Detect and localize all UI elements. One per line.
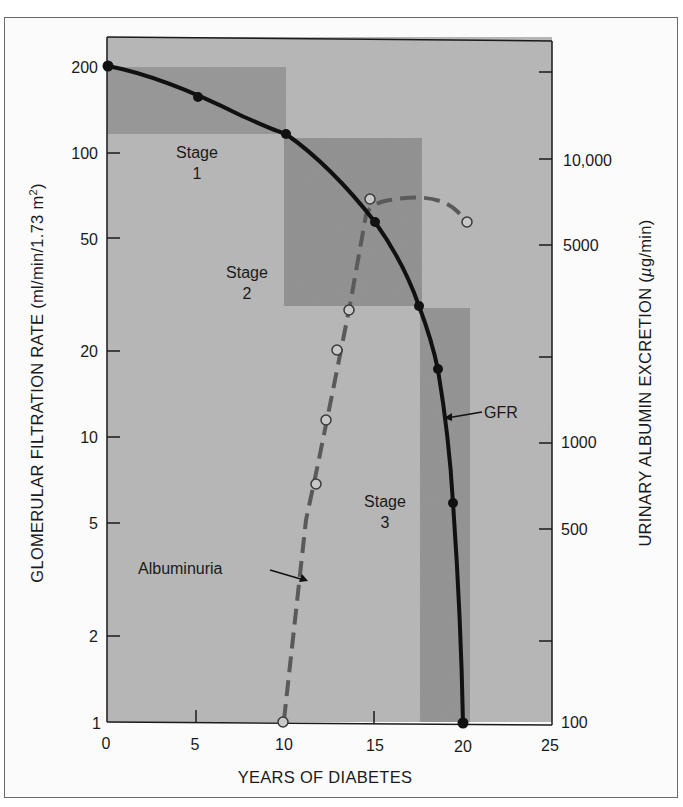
- albuminuria-point: [278, 717, 288, 727]
- x-tick-25: 25: [541, 737, 559, 754]
- y-left-tick-20: 20: [80, 343, 98, 360]
- y-right-tick-10000: 10,000: [563, 152, 612, 169]
- albuminuria-point: [344, 305, 354, 315]
- stage-3-label: Stage: [364, 493, 406, 510]
- gfr-point: [193, 92, 203, 102]
- albuminuria-point: [365, 194, 375, 204]
- gfr-label: GFR: [484, 404, 518, 421]
- gfr-point: [281, 129, 291, 139]
- y-left-tick-50: 50: [80, 231, 98, 248]
- x-tick-5: 5: [191, 736, 200, 753]
- y-left-axis-title: GLOMERULAR FILTRATION RATE (ml/min/1.73 …: [27, 183, 46, 582]
- gfr-point: [433, 364, 443, 374]
- gfr-point: [103, 61, 114, 72]
- y-right-axis-title: URINARY ALBUMIN EXCRETION (µg/min): [636, 219, 654, 546]
- albuminuria-point: [321, 415, 331, 425]
- stage-2-number: 2: [243, 285, 252, 302]
- y-right-tick-500: 500: [561, 521, 588, 538]
- x-axis-title: YEARS OF DIABETES: [238, 768, 413, 786]
- gfr-point: [414, 301, 424, 311]
- albuminuria-label: Albuminuria: [138, 560, 223, 577]
- y-right-tick-1000: 1000: [561, 434, 597, 451]
- gfr-point: [448, 498, 458, 508]
- x-tick-15: 15: [366, 737, 384, 754]
- stage-3-number: 3: [381, 514, 390, 531]
- y-right-tick-5000: 5000: [563, 237, 599, 254]
- x-tick-0: 0: [102, 735, 111, 752]
- stage-1-number: 1: [193, 165, 202, 182]
- albuminuria-point: [311, 479, 321, 489]
- y-left-tick-2: 2: [89, 628, 98, 645]
- gfr-point: [458, 718, 469, 729]
- chart: 1 2 5 10 20 50 100 200 100 500 1000 5000…: [0, 0, 683, 807]
- gfr-point: [370, 217, 380, 227]
- y-left-tick-100: 100: [71, 145, 98, 162]
- x-axis: [107, 722, 552, 725]
- y-left-tick-5: 5: [89, 515, 98, 532]
- y-right-tick-100: 100: [561, 714, 588, 731]
- y-left-tick-1: 1: [92, 715, 101, 732]
- stage-2-label: Stage: [226, 264, 268, 281]
- albuminuria-point: [462, 217, 472, 227]
- stage-1-label: Stage: [176, 144, 218, 161]
- y-left-tick-200: 200: [71, 59, 98, 76]
- y-left-tick-10: 10: [80, 429, 98, 446]
- x-tick-10: 10: [275, 736, 293, 753]
- albuminuria-point: [332, 345, 342, 355]
- x-tick-20: 20: [454, 738, 472, 755]
